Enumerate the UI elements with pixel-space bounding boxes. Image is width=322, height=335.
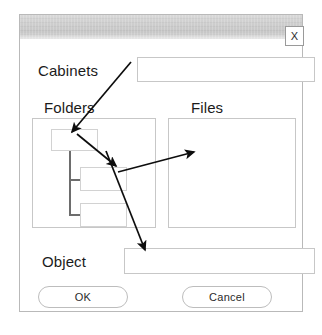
ok-button[interactable]: OK (38, 286, 128, 308)
tree-connector-vertical (69, 151, 71, 215)
cancel-button[interactable]: Cancel (182, 286, 272, 308)
title-bar[interactable] (20, 15, 302, 39)
cabinets-input[interactable] (137, 57, 315, 82)
folders-label: Folders (44, 99, 95, 116)
files-label: Files (191, 99, 223, 116)
screenshot-canvas: X Cabinets Folders Files Object OK Cance… (0, 0, 322, 335)
folder-node-root[interactable] (51, 129, 98, 151)
folder-node-child-2[interactable] (80, 203, 127, 227)
close-icon[interactable]: X (285, 26, 304, 46)
object-input[interactable] (124, 248, 315, 274)
files-pane[interactable] (168, 118, 296, 228)
dialog-window: X Cabinets Folders Files Object OK Cance… (19, 14, 303, 312)
object-label: Object (42, 253, 86, 270)
folder-node-child-1[interactable] (80, 167, 127, 191)
folders-pane[interactable] (32, 118, 156, 228)
cabinets-label: Cabinets (38, 62, 98, 79)
